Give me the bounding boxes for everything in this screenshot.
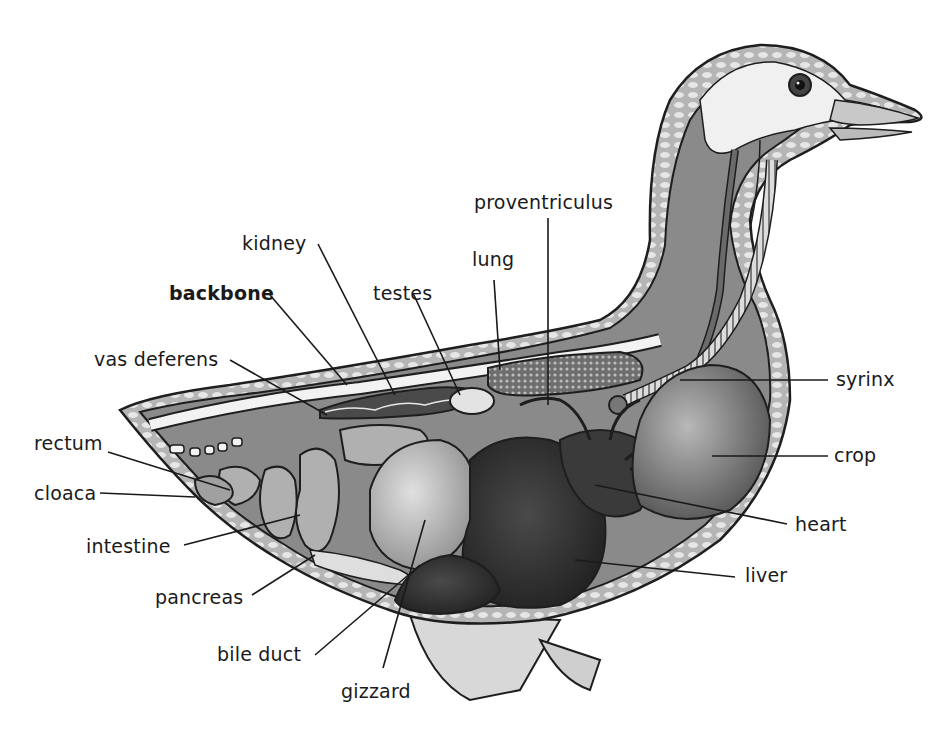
label-testes: testes xyxy=(373,284,432,303)
label-heart: heart xyxy=(795,515,847,534)
label-crop: crop xyxy=(834,446,876,465)
label-intestine: intestine xyxy=(86,537,171,556)
label-liver: liver xyxy=(745,566,787,585)
testes xyxy=(450,388,494,414)
label-vas-deferens: vas deferens xyxy=(94,350,218,369)
label-gizzard: gizzard xyxy=(341,682,411,701)
label-cloaca: cloaca xyxy=(34,484,96,503)
label-backbone: backbone xyxy=(169,284,274,303)
label-syrinx: syrinx xyxy=(836,370,895,389)
label-rectum: rectum xyxy=(34,434,103,453)
label-pancreas: pancreas xyxy=(155,588,243,607)
label-proventriculus: proventriculus xyxy=(474,193,613,212)
leg-feathers xyxy=(410,615,560,700)
label-kidney: kidney xyxy=(242,234,307,253)
label-lung: lung xyxy=(472,250,514,269)
label-bile-duct: bile duct xyxy=(217,645,301,664)
